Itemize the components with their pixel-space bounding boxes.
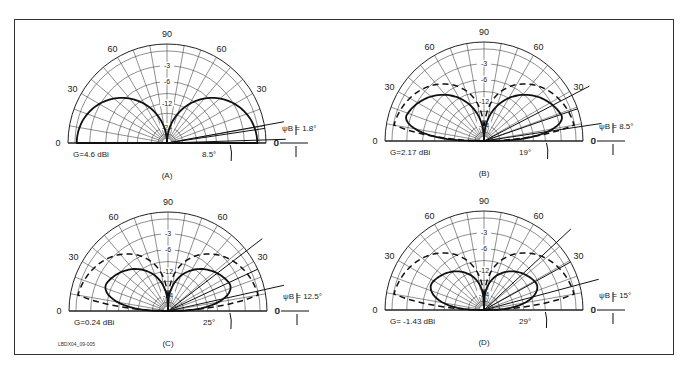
takeoff-arrow: [547, 143, 548, 159]
panel-caption: (A): [162, 171, 173, 180]
panel-caption: (C): [162, 339, 173, 348]
angle-tick-label: 60: [533, 211, 543, 221]
angle-tick-label: 60: [533, 42, 543, 52]
angle-tick-label: 30: [385, 251, 395, 261]
angle-tick-label: 30: [385, 82, 395, 92]
angle-tick-label: 90: [163, 197, 173, 207]
takeoff-angle-label: 25°: [203, 318, 215, 327]
db-ring-label: -12: [163, 268, 173, 275]
angle-tick-label: 60: [107, 44, 117, 54]
db-ring-label: -6: [164, 78, 170, 85]
db-ring-label: -12: [479, 98, 489, 105]
panel-C: 030609060300-3-6-12-240ψB = 12.5°25°G=0.…: [56, 197, 321, 348]
panel-caption: (D): [478, 338, 489, 347]
db-ring-label: -12: [479, 267, 489, 274]
angle-tick-label: 0: [372, 305, 377, 315]
beamwidth-label: ψB = 12.5°: [283, 292, 322, 301]
gain-label: G=2.17 dBi: [390, 148, 430, 157]
db-ring-label: -12: [162, 100, 172, 107]
gain-label: G= -1.43 dBi: [390, 317, 435, 326]
angle-tick-label: 30: [573, 251, 583, 261]
angle-tick-label: 0: [56, 306, 61, 316]
beamwidth-label: ψB = 8.5°: [599, 122, 633, 131]
takeoff-angle-label: 29°: [519, 317, 531, 326]
panel-caption: (B): [479, 169, 490, 178]
db-ring-label: -3: [165, 230, 171, 237]
angle-tick-label: 30: [256, 84, 266, 94]
angle-tick-label: 60: [424, 211, 434, 221]
db-ring-label: -6: [481, 76, 487, 83]
angle-tick-label: 60: [108, 212, 118, 222]
angle-tick-label: 60: [424, 42, 434, 52]
radiation-lobe: [105, 269, 168, 311]
db-ring-label: -3: [481, 60, 487, 67]
takeoff-arrow: [230, 313, 231, 329]
zero-angle-label: 0: [274, 138, 279, 148]
takeoff-angle-label: 19°: [519, 148, 531, 157]
panel-D: 030609060300-3-6-12-240ψB = 15°29°G= -1.…: [372, 196, 631, 347]
angle-tick-label: 30: [257, 252, 267, 262]
radiation-lobe: [431, 271, 484, 310]
angle-tick-label: 90: [479, 196, 489, 206]
zero-angle-label: 0: [275, 306, 280, 316]
beamwidth-label: ψB = 1.8°: [282, 124, 316, 133]
angle-tick-label: 90: [162, 29, 172, 39]
gain-label: G=4.6 dBi: [73, 150, 109, 159]
beamwidth-label: ψB = 15°: [599, 291, 631, 300]
takeoff-angle-label: 8.5°: [202, 150, 216, 159]
angle-tick-label: 60: [217, 212, 227, 222]
angle-tick-label: 30: [69, 252, 79, 262]
db-ring-label: -3: [164, 62, 170, 69]
radiation-lobe: [168, 269, 231, 311]
angle-tick-label: 0: [372, 136, 377, 146]
radiation-lobe: [484, 271, 537, 310]
panel-B: 030609060300-3-6-12-240ψB = 8.5°19°G=2.1…: [372, 27, 633, 178]
polar-pattern-figure: 030609060300-3-6-12-240ψB = 1.8°8.5°G=4.…: [0, 0, 684, 368]
gain-label: G=0.24 dBi: [74, 318, 114, 327]
db-ring-label: -3: [481, 229, 487, 236]
angle-tick-label: 0: [55, 138, 60, 148]
takeoff-arrow: [545, 312, 546, 328]
angle-tick-label: 90: [479, 27, 489, 37]
zero-angle-label: 0: [591, 136, 596, 146]
takeoff-angle-ray: [484, 109, 578, 141]
angle-tick-label: 60: [216, 44, 226, 54]
zero-angle-label: 0: [591, 305, 596, 315]
db-ring-label: -6: [165, 246, 171, 253]
takeoff-arrow: [230, 145, 231, 161]
figure-code-label: LBDX04_09-005: [58, 341, 95, 347]
panel-A: 030609060300-3-6-12-240ψB = 1.8°8.5°G=4.…: [55, 29, 316, 180]
db-ring-label: -6: [481, 245, 487, 252]
angle-tick-label: 30: [68, 84, 78, 94]
